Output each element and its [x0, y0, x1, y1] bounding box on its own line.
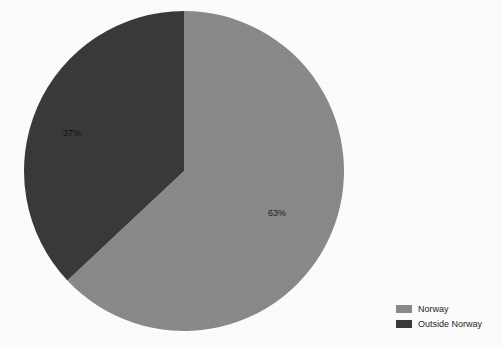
pie-chart-canvas — [0, 0, 502, 348]
pie-slice-label-norway: 63% — [268, 208, 286, 218]
legend-swatch-norway — [396, 305, 412, 313]
legend-item-outside-norway[interactable]: Outside Norway — [396, 318, 482, 330]
pie-slice-label-outside-norway: 37% — [63, 128, 81, 138]
legend-label-outside-norway: Outside Norway — [418, 319, 482, 329]
pie-chart: 63% 37% Norway Outside Norway — [0, 0, 502, 348]
legend-swatch-outside-norway — [396, 320, 412, 328]
legend-label-norway: Norway — [418, 304, 449, 314]
chart-legend: Norway Outside Norway — [396, 303, 482, 330]
legend-item-norway[interactable]: Norway — [396, 303, 482, 315]
